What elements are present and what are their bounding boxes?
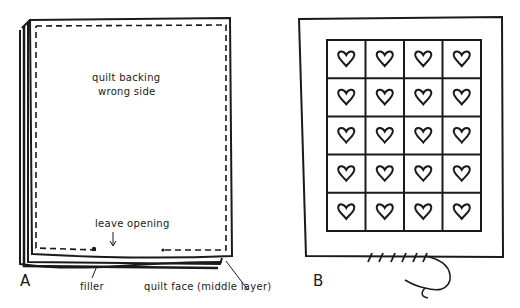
heart-icon bbox=[454, 52, 470, 67]
heart-icon bbox=[377, 166, 393, 181]
heart-icon bbox=[338, 52, 354, 67]
heart-icon bbox=[415, 52, 431, 67]
heart-icon bbox=[415, 90, 431, 105]
heart-icon bbox=[377, 52, 393, 67]
heart-icon bbox=[338, 90, 354, 105]
panel-letter-b: B bbox=[313, 272, 323, 290]
heart-icon bbox=[454, 204, 470, 219]
heart-icon bbox=[338, 204, 354, 219]
heart-icon bbox=[454, 128, 470, 143]
heart-icon bbox=[415, 128, 431, 143]
heart-icon bbox=[415, 204, 431, 219]
heart-icon bbox=[377, 204, 393, 219]
heart-icon bbox=[415, 166, 431, 181]
heart-icon bbox=[338, 128, 354, 143]
heart-icon bbox=[338, 166, 354, 181]
panel-b-drawing bbox=[0, 0, 520, 308]
heart-icon bbox=[454, 166, 470, 181]
heart-icon bbox=[377, 128, 393, 143]
heart-icon bbox=[377, 90, 393, 105]
heart-icon bbox=[454, 90, 470, 105]
